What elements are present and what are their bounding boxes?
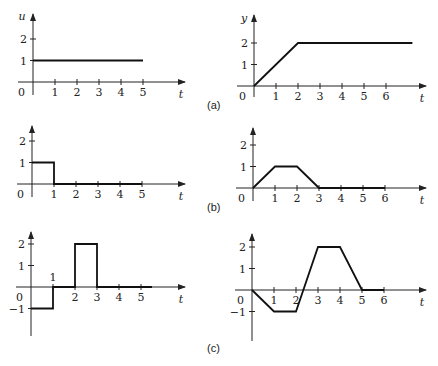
x-tick-label: 5 [138,291,145,304]
plot-a-input: 12345120tu [18,10,185,101]
panel-label-a: (a) [207,99,220,111]
y-tick-label: −1 [9,303,25,316]
x-tick-label: 1 [51,188,58,201]
x-axis-label: t [420,296,425,309]
x-tick-label: 3 [315,294,322,307]
y-tick-label: −1 [230,306,246,319]
origin-label: 0 [239,90,246,103]
x-tick-label: 4 [339,90,346,103]
signal-curve [254,43,412,86]
x-tick-label: 2 [295,90,302,103]
x-tick-label: 6 [381,294,388,307]
x-axis-label: t [179,190,184,203]
x-tick-label: 6 [383,90,390,103]
y-tick-label: 1 [20,55,27,68]
y-tick-label: 1 [18,260,25,273]
x-tick-label: 5 [360,192,367,205]
y-tick-label: 2 [18,238,25,251]
panel-label-b: (b) [207,201,220,213]
x-tick-label: 2 [294,192,301,205]
origin-label: 0 [238,192,245,205]
x-tick-label: 4 [338,192,345,205]
x-tick-label: 1 [272,192,279,205]
origin-label: 0 [16,291,23,304]
x-axis-label: t [179,88,184,101]
x-tick-label: 2 [73,188,80,201]
x-tick-label: 1 [50,271,57,284]
x-tick-label: 2 [74,86,81,99]
x-axis-label: t [420,194,425,207]
x-tick-label: 2 [72,291,79,304]
x-tick-label: 4 [117,188,124,201]
figure-canvas: 12345120tu123456120ty12345120t123456120t… [0,0,438,366]
x-tick-label: 5 [361,90,368,103]
plots-layer: 12345120tu123456120ty12345120t123456120t… [9,10,426,341]
origin-label: 0 [237,294,244,307]
y-tick-label: 2 [239,241,246,254]
x-tick-label: 1 [52,86,59,99]
signal-curve [253,167,385,189]
x-tick-label: 3 [316,192,323,205]
y-tick-label: 2 [20,33,27,46]
x-tick-label: 5 [139,188,146,201]
y-tick-label: 1 [19,157,26,170]
y-tick-label: 2 [240,139,247,152]
plot-b-output: 123456120t [236,128,426,207]
y-axis-label: u [18,10,25,23]
x-tick-label: 3 [96,86,103,99]
x-tick-label: 1 [273,90,280,103]
x-tick-label: 3 [317,90,324,103]
y-tick-label: 1 [239,263,246,276]
x-axis-label: t [420,92,425,105]
origin-label: 0 [18,86,25,99]
x-tick-label: 4 [337,294,344,307]
y-tick-label: 1 [240,161,247,174]
plot-c-input: 12345−1120t [9,232,185,336]
panel-label-c: (c) [207,342,220,354]
plot-c-output: 123456−1120t [230,234,426,341]
x-tick-label: 4 [116,291,123,304]
plot-b-input: 12345120t [17,126,185,203]
x-tick-label: 5 [359,294,366,307]
y-axis-label: y [240,12,248,25]
x-tick-label: 5 [140,86,147,99]
origin-label: 0 [17,188,24,201]
x-tick-label: 6 [382,192,389,205]
signal-curve [32,163,142,185]
x-tick-label: 3 [95,188,102,201]
x-axis-label: t [179,293,184,306]
y-tick-label: 1 [241,59,248,72]
y-tick-label: 2 [19,135,26,148]
x-tick-label: 1 [271,294,278,307]
y-tick-label: 2 [241,37,248,50]
x-tick-label: 4 [118,86,125,99]
plot-a-output: 123456120ty [237,12,426,105]
x-tick-label: 3 [94,291,101,304]
